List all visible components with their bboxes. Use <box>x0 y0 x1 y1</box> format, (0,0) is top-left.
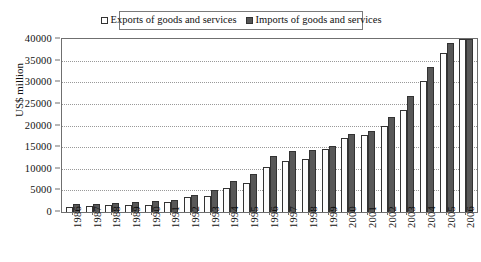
y-tick-mark <box>55 146 60 147</box>
x-tick-group: 2005 <box>436 212 456 262</box>
bar-exports-2000 <box>341 138 348 212</box>
bar-exports-2005 <box>440 53 447 212</box>
y-tick-mark <box>55 102 60 103</box>
x-tick-group: 2003 <box>396 212 416 262</box>
bar-exports-1997 <box>282 161 289 212</box>
bar-imports-1999 <box>329 146 336 212</box>
x-tick-group: 1997 <box>278 212 298 262</box>
bar-imports-1998 <box>309 150 316 212</box>
x-tick-group: 1987 <box>82 212 102 262</box>
hollow-square-icon <box>101 17 108 24</box>
x-tick-group: 1994 <box>219 212 239 262</box>
bar-group <box>83 39 103 212</box>
y-tick-label: 40000 <box>25 33 52 44</box>
y-tick-mark <box>55 167 60 168</box>
y-tick-mark <box>55 211 60 212</box>
x-tick-group: 1986 <box>62 212 82 262</box>
bar-group <box>63 39 83 212</box>
bar-group <box>417 39 437 212</box>
y-tick-label: 25000 <box>25 97 52 108</box>
x-tick-group: 2006 <box>455 212 475 262</box>
bar-group <box>437 39 457 212</box>
bar-group <box>279 39 299 212</box>
filled-square-icon <box>246 17 253 24</box>
y-axis-title: US$ million <box>13 30 25 150</box>
y-tick-mark <box>55 81 60 82</box>
x-tick-label-2006: 2006 <box>465 206 476 228</box>
bar-group <box>299 39 319 212</box>
bar-group <box>142 39 162 212</box>
bar-imports-2002 <box>388 117 395 212</box>
bar-imports-2004 <box>427 67 434 212</box>
bar-imports-1996 <box>270 156 277 212</box>
legend-label-imports: Imports of goods and services <box>256 15 382 26</box>
bar-exports-2004 <box>420 81 427 212</box>
x-tick-group: 1992 <box>180 212 200 262</box>
bar-group <box>358 39 378 212</box>
plot-area <box>61 38 478 213</box>
x-tick-group: 1990 <box>141 212 161 262</box>
bar-imports-2005 <box>447 43 454 212</box>
x-tick-group: 2004 <box>416 212 436 262</box>
bar-group <box>260 39 280 212</box>
legend-label-exports: Exports of goods and services <box>111 15 237 26</box>
x-tick-group: 2002 <box>377 212 397 262</box>
bar-group <box>102 39 122 212</box>
bars-layer <box>62 39 477 212</box>
x-tick-group: 1988 <box>101 212 121 262</box>
chart-legend: Exports of goods and services Imports of… <box>119 11 363 30</box>
bar-imports-2003 <box>407 96 414 212</box>
x-tick-group: 1993 <box>200 212 220 262</box>
bar-group <box>378 39 398 212</box>
bar-imports-2000 <box>348 134 355 212</box>
bar-group <box>338 39 358 212</box>
x-tick-group: 1996 <box>259 212 279 262</box>
bar-exports-1999 <box>322 149 329 212</box>
bar-chart: Exports of goods and services Imports of… <box>0 0 481 262</box>
x-tick-group: 1991 <box>160 212 180 262</box>
y-tick-label: 30000 <box>25 76 52 87</box>
x-tick-group: 1989 <box>121 212 141 262</box>
y-tick-label: 5000 <box>30 184 52 195</box>
bar-group <box>456 39 476 212</box>
y-axis: 4000035000300002500020000150001000050000 <box>0 38 57 211</box>
y-tick-mark <box>55 124 60 125</box>
bar-exports-2006 <box>459 39 466 212</box>
y-tick-label: 20000 <box>25 119 52 130</box>
bar-group <box>181 39 201 212</box>
bar-exports-2001 <box>361 135 368 212</box>
bar-group <box>240 39 260 212</box>
x-tick-group: 1998 <box>298 212 318 262</box>
x-tick-group: 1999 <box>318 212 338 262</box>
x-tick-group: 2001 <box>357 212 377 262</box>
bar-exports-1998 <box>302 159 309 212</box>
y-tick-mark <box>55 189 60 190</box>
bar-exports-2003 <box>400 110 407 212</box>
y-tick-label: 15000 <box>25 141 52 152</box>
bar-imports-2001 <box>368 131 375 212</box>
bar-group <box>319 39 339 212</box>
bar-exports-2002 <box>381 126 388 213</box>
legend-item-imports: Imports of goods and services <box>246 15 382 26</box>
bar-group <box>122 39 142 212</box>
y-tick-label: 35000 <box>25 54 52 65</box>
y-tick-label: 10000 <box>25 162 52 173</box>
bar-imports-1997 <box>289 151 296 212</box>
bar-imports-2006 <box>466 39 473 212</box>
bar-group <box>397 39 417 212</box>
bar-group <box>220 39 240 212</box>
y-tick-label: 0 <box>47 206 52 217</box>
x-tick-group: 1995 <box>239 212 259 262</box>
x-axis: 1986198719881989199019911992199319941995… <box>61 212 476 262</box>
legend-item-exports: Exports of goods and services <box>101 15 237 26</box>
bar-group <box>161 39 181 212</box>
y-tick-mark <box>55 38 60 39</box>
x-tick-group: 2000 <box>337 212 357 262</box>
bar-group <box>201 39 221 212</box>
y-tick-mark <box>55 59 60 60</box>
